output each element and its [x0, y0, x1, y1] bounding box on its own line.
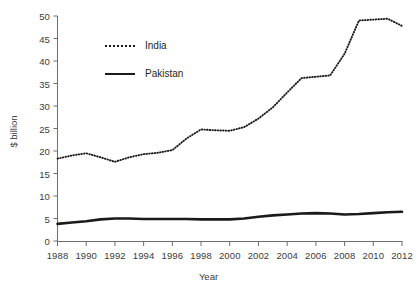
x-tick-label-2008: 2008: [334, 250, 356, 261]
y-tick-label-45: 45: [18, 33, 50, 44]
y-tick-label-50: 50: [18, 11, 50, 22]
x-tick-label-1996: 1996: [162, 250, 184, 261]
line-chart: 05101520253035404550 1988199019921994199…: [0, 0, 417, 291]
series-line-pakistan: [58, 212, 403, 224]
x-tick-label-2000: 2000: [219, 250, 241, 261]
x-tick-label-2006: 2006: [305, 250, 327, 261]
x-tick-label-1988: 1988: [47, 250, 69, 261]
legend-label-india: India: [145, 40, 167, 51]
x-tick-label-2004: 2004: [276, 250, 298, 261]
y-tick-label-5: 5: [18, 213, 50, 224]
legend-item-india: India: [105, 38, 167, 52]
x-tick-label-1994: 1994: [133, 250, 155, 261]
legend-item-pakistan: Pakistan: [105, 66, 183, 80]
x-tick-label-1998: 1998: [190, 250, 212, 261]
y-tick-label-20: 20: [18, 146, 50, 157]
y-tick-label-10: 10: [18, 191, 50, 202]
x-tick-label-2012: 2012: [391, 250, 413, 261]
x-axis-title: Year: [0, 271, 417, 282]
y-tick-label-0: 0: [18, 236, 50, 247]
y-axis-ticks: [54, 16, 58, 241]
legend-label-pakistan: Pakistan: [145, 68, 183, 79]
x-tick-label-2002: 2002: [248, 250, 270, 261]
x-tick-label-1990: 1990: [75, 250, 97, 261]
y-axis-title: $ billion: [8, 97, 19, 167]
legend-line-dotted-icon: [105, 40, 135, 50]
x-tick-label-1992: 1992: [104, 250, 126, 261]
y-tick-label-35: 35: [18, 78, 50, 89]
plot-area: [0, 0, 417, 291]
y-tick-label-30: 30: [18, 101, 50, 112]
y-tick-label-25: 25: [18, 123, 50, 134]
y-tick-label-15: 15: [18, 168, 50, 179]
y-tick-label-40: 40: [18, 56, 50, 67]
legend-line-solid-icon: [105, 68, 135, 78]
x-tick-label-2010: 2010: [363, 250, 385, 261]
